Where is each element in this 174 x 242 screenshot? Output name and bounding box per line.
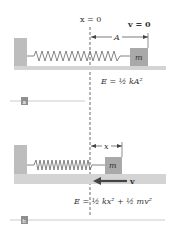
- panel-a: x = 0 v = 0 A m E = ½ kA² a: [10, 15, 166, 105]
- energy-equation: E = ½ kx² + ½ mv²: [73, 197, 152, 206]
- energy-equation: E = ½ kA²: [100, 77, 143, 86]
- mass-label: m: [109, 161, 117, 170]
- mass-label: m: [135, 53, 143, 62]
- wall: [14, 145, 27, 177]
- amplitude-label: A: [113, 33, 120, 42]
- velocity-zero-label: v = 0: [127, 19, 151, 29]
- velocity-label: v: [129, 176, 135, 186]
- spring: [27, 51, 130, 61]
- floor: [14, 66, 166, 70]
- wall: [14, 38, 27, 69]
- panel-b: x m v E = ½ kx² + ½ mv² b: [10, 141, 166, 224]
- spring-mass-diagram: x = 0 v = 0 A m E = ½ kA² a x: [0, 0, 174, 242]
- floor: [14, 174, 166, 184]
- origin-label: x = 0: [80, 15, 101, 24]
- displacement-label: x: [104, 142, 109, 151]
- spring-compressed: [27, 160, 105, 170]
